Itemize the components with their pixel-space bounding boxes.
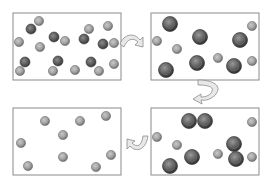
small-particle	[247, 117, 256, 126]
small-particle	[101, 111, 110, 120]
small-particle	[213, 149, 222, 158]
small-particle	[70, 65, 79, 74]
small-particle	[40, 116, 49, 125]
small-particle	[106, 150, 115, 159]
large-particle	[193, 30, 208, 45]
large-particle	[227, 59, 242, 74]
dark-particle	[98, 39, 108, 49]
small-particle	[152, 36, 161, 45]
large-particle	[182, 114, 197, 129]
small-particle	[172, 140, 181, 149]
process-diagram	[0, 0, 269, 188]
dark-particle	[79, 34, 89, 44]
arrow-1-to-2	[120, 35, 143, 47]
large-particle	[198, 114, 213, 129]
small-particle	[14, 37, 23, 46]
panel-1	[13, 13, 121, 80]
small-particle	[109, 38, 118, 47]
small-particle	[109, 59, 118, 68]
large-particle	[233, 33, 248, 48]
dark-particle	[49, 32, 59, 42]
small-particle	[75, 116, 84, 125]
small-particle	[58, 130, 67, 139]
small-particle	[84, 24, 93, 33]
small-particle	[91, 162, 100, 171]
dark-particle	[86, 57, 96, 67]
small-particle	[60, 36, 69, 45]
panel-4	[151, 108, 259, 175]
small-particle	[213, 53, 222, 62]
large-particle	[190, 56, 205, 71]
panel-3	[13, 108, 121, 175]
dark-particle	[20, 57, 30, 67]
small-particle	[23, 161, 32, 170]
dark-particle	[53, 56, 63, 66]
small-particle	[15, 66, 24, 75]
large-particle	[227, 137, 242, 152]
panel-2	[151, 13, 259, 80]
small-particle	[48, 66, 57, 75]
small-particle	[16, 138, 25, 147]
small-particle	[103, 21, 112, 30]
large-particle	[185, 150, 200, 165]
arrow-2-to-4	[193, 80, 218, 104]
small-particle	[152, 132, 161, 141]
small-particle	[247, 21, 256, 30]
dark-particle	[26, 24, 36, 34]
small-particle	[94, 66, 103, 75]
large-particle	[163, 159, 178, 174]
small-particle	[34, 16, 43, 25]
small-particle	[172, 44, 181, 53]
small-particle	[35, 42, 44, 51]
small-particle	[58, 152, 67, 161]
large-particle	[163, 17, 178, 32]
arrow-4-to-3	[127, 136, 148, 150]
small-particle	[247, 152, 256, 161]
small-particle	[247, 56, 256, 65]
large-particle	[159, 63, 174, 78]
large-particle	[229, 152, 244, 167]
